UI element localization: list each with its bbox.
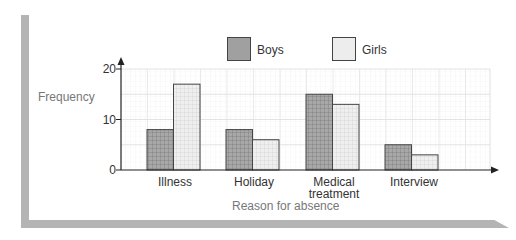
category-label-medical-line2: treatment bbox=[294, 188, 374, 200]
bar-girls-3 bbox=[412, 155, 439, 170]
bar-boys-1 bbox=[226, 130, 253, 170]
y-axis-label: Frequency bbox=[38, 90, 95, 104]
category-label-medical-treatment: Medical treatment bbox=[294, 176, 374, 200]
bar-boys-2 bbox=[306, 94, 333, 170]
legend-label-boys: Boys bbox=[257, 43, 284, 57]
bar-boys-3 bbox=[385, 145, 412, 170]
bar-girls-1 bbox=[253, 140, 280, 170]
y-tick-0: 0 bbox=[86, 163, 116, 177]
category-label-holiday: Holiday bbox=[214, 176, 294, 188]
y-tick-20: 20 bbox=[86, 62, 116, 76]
bar-girls-0 bbox=[174, 84, 201, 170]
category-label-interview: Interview bbox=[374, 176, 454, 188]
y-tick-10: 10 bbox=[86, 113, 116, 127]
legend-swatch-boys bbox=[227, 37, 251, 61]
legend-swatch-girls bbox=[332, 37, 356, 61]
legend-label-girls: Girls bbox=[362, 43, 387, 57]
x-axis-label: Reason for absence bbox=[232, 199, 339, 213]
category-label-illness: Illness bbox=[135, 176, 215, 188]
bar-boys-0 bbox=[147, 130, 174, 170]
bar-girls-2 bbox=[333, 104, 360, 170]
